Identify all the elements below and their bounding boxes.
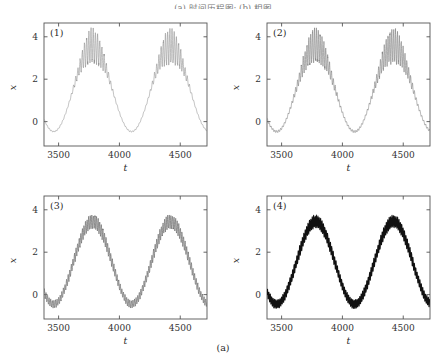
plot-frame [44,23,207,146]
y-tick-label: 0 [32,117,38,127]
x-tick-label: 4500 [169,323,192,333]
plot-canvas: 350040004500024tx(1) [0,9,223,184]
y-tick-label: 2 [32,247,38,257]
y-axis-label: x [7,257,18,263]
x-tick-label: 4500 [392,323,415,333]
data-trace [267,215,430,308]
figure-caption: (a) [0,340,446,362]
x-tick-label: 4000 [331,323,354,333]
data-trace [44,215,207,308]
plot-canvas: 350040004500024tx(4) [223,182,446,357]
plot-canvas: 350040004500024tx(3) [0,182,223,357]
y-axis-label: x [230,257,241,263]
y-tick-label: 4 [32,205,38,215]
y-tick-label: 0 [255,117,261,127]
panel-1: 350040004500024tx(1) [0,9,223,184]
y-tick-label: 2 [255,247,261,257]
data-trace [267,28,430,133]
y-tick-label: 0 [255,290,261,300]
x-tick-label: 4500 [169,150,192,160]
figure-header: (a) 时间历程图; (b) 相图 [0,0,446,9]
y-tick-label: 4 [255,32,261,42]
y-axis-label: x [230,84,241,90]
plot-frame [267,23,430,146]
panel-tag: (1) [50,27,63,38]
panel-tag: (3) [50,200,63,211]
figure-caption-label: (a) [216,342,229,353]
panel-3: 350040004500024tx(3) [0,182,223,357]
data-trace [44,28,207,133]
figure-grid: 350040004500024tx(1) 350040004500024tx(2… [0,9,446,349]
panel-2: 350040004500024tx(2) [223,9,446,184]
x-tick-label: 3500 [270,150,293,160]
y-tick-label: 2 [255,74,261,84]
x-tick-label: 4000 [108,323,131,333]
x-tick-label: 3500 [47,150,70,160]
x-tick-label: 4000 [108,150,131,160]
x-axis-label: t [347,162,351,173]
x-tick-label: 3500 [270,323,293,333]
panel-tag: (4) [273,200,286,211]
panel-4: 350040004500024tx(4) [223,182,446,357]
plot-canvas: 350040004500024tx(2) [223,9,446,184]
panel-tag: (2) [273,27,286,38]
x-axis-label: t [124,162,128,173]
y-tick-label: 4 [255,205,261,215]
y-axis-label: x [7,84,18,90]
y-tick-label: 4 [32,32,38,42]
y-tick-label: 2 [32,74,38,84]
x-tick-label: 3500 [47,323,70,333]
y-tick-label: 0 [32,290,38,300]
x-tick-label: 4000 [331,150,354,160]
x-tick-label: 4500 [392,150,415,160]
